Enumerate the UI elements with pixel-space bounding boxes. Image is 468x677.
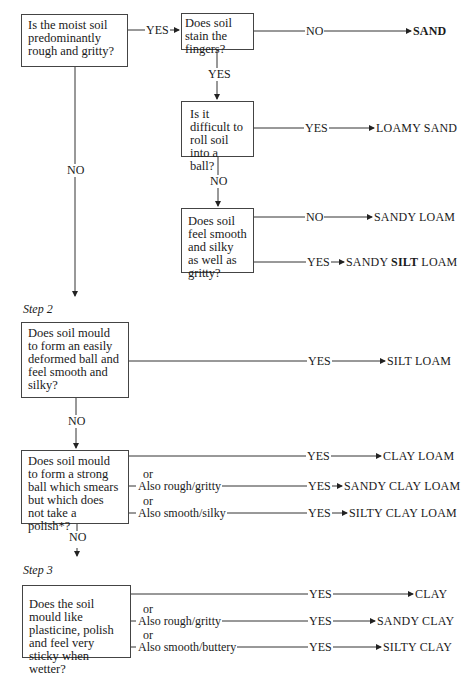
label-yes: YES [145, 24, 170, 37]
result-silt-loam: SILT LOAM [387, 355, 451, 368]
label-yes: YES [308, 615, 333, 628]
question-box-silt-loam: Does soil mould to form an easily deform… [21, 322, 129, 398]
label-yes: YES [207, 68, 232, 81]
step-2-label: Step 2 [23, 302, 53, 317]
label-no: NO [305, 211, 324, 224]
label-yes: YES [307, 480, 332, 493]
label-no: NO [66, 164, 85, 177]
result-sandy-clay-loam: SANDY CLAY LOAM [344, 480, 460, 493]
label-yes: YES [308, 641, 333, 654]
question-text: Is the moist soil predominantly rough an… [28, 18, 114, 58]
question-text: Does soil mould to form an easily deform… [28, 326, 119, 392]
question-box-smooth-silky: Does soil feel smooth and silky as well … [181, 208, 254, 273]
result-silty-clay-loam: SILTY CLAY LOAM [349, 507, 457, 520]
label-no: NO [68, 531, 87, 544]
label-no: NO [209, 175, 228, 188]
question-text: Does soil stain the fingers? [185, 16, 232, 56]
result-part: LOAM [418, 255, 457, 269]
result-sandy-silt-loam: SANDY SILT LOAM [346, 256, 458, 269]
label-yes: YES [304, 122, 329, 135]
result-sand: SAND [413, 25, 446, 38]
label-also-smooth-silky: Also smooth/silky [137, 507, 227, 520]
result-sandy-clay: SANDY CLAY [377, 615, 454, 628]
question-text: Does soil feel smooth and silky as well … [188, 214, 247, 280]
question-box-stain-fingers: Does soil stain the fingers? [181, 13, 254, 50]
question-text: Does soil mould to form a strong ball wh… [28, 454, 118, 533]
question-box-roll-ball: Is it difficult to roll soil into a ball… [181, 101, 254, 157]
label-also-smooth-buttery: Also smooth/buttery [137, 641, 237, 654]
step-3-label: Step 3 [23, 563, 53, 578]
label-yes: YES [306, 450, 331, 463]
result-clay: CLAY [415, 588, 447, 601]
result-part: SANDY [346, 255, 391, 269]
label-yes: YES [306, 256, 331, 269]
question-box-clay: Does the soil mould like plasticine, pol… [22, 585, 131, 658]
result-part-bold: SILT [391, 255, 418, 269]
question-box-rough-gritty: Is the moist soil predominantly rough an… [21, 14, 128, 67]
label-no: NO [67, 415, 86, 428]
label-also-rough-gritty: Also rough/gritty [137, 615, 222, 628]
result-sandy-loam: SANDY LOAM [374, 211, 455, 224]
question-box-clay-loam: Does soil mould to form a strong ball wh… [21, 450, 129, 524]
label-no: NO [305, 25, 324, 38]
result-silty-clay: SILTY CLAY [383, 641, 452, 654]
label-yes: YES [308, 588, 333, 601]
result-loamy-sand: LOAMY SAND [376, 122, 457, 135]
label-yes: YES [307, 355, 332, 368]
label-yes: YES [307, 507, 332, 520]
result-clay-loam: CLAY LOAM [383, 450, 454, 463]
label-also-rough-gritty: Also rough/gritty [137, 480, 222, 493]
